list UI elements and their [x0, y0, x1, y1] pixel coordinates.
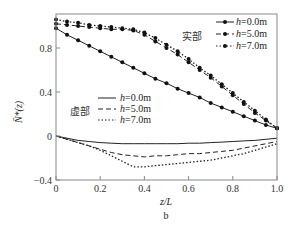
data-point: [231, 91, 235, 95]
legend-marker: [223, 44, 227, 48]
legend-imag: 虚部h=0.0mh=5.0mh=7.0m: [70, 92, 151, 125]
series-line: [56, 136, 277, 144]
legend-group-label-real: 实部: [182, 30, 202, 42]
data-point: [198, 66, 202, 70]
data-point: [253, 109, 257, 113]
data-point: [120, 26, 124, 30]
legend-entry: h=7.0m: [236, 40, 267, 51]
x-tick-label: 1.0: [271, 183, 284, 194]
data-point: [98, 49, 102, 53]
legend-entry: h=0.0m: [236, 16, 267, 27]
panel-label: b: [164, 210, 169, 221]
legend-marker: [223, 20, 227, 24]
x-tick-label: 0.2: [94, 183, 107, 194]
y-axis-label: N̄*(z): [13, 100, 25, 124]
y-tick-label: 0.8: [40, 43, 53, 54]
data-point: [165, 81, 169, 85]
data-point: [220, 105, 224, 109]
x-tick-label: 0.6: [182, 183, 195, 194]
data-point: [209, 74, 213, 78]
legend-marker: [223, 32, 227, 36]
x-tick-label: 0: [54, 183, 59, 194]
data-point: [98, 24, 102, 28]
legend-real: 实部h=0.0mh=5.0mh=7.0m: [182, 16, 267, 51]
data-point: [187, 91, 191, 95]
data-point: [109, 25, 113, 29]
data-point: [65, 33, 69, 37]
data-point: [120, 60, 124, 64]
data-point: [253, 119, 257, 123]
data-point: [176, 87, 180, 91]
data-point: [231, 110, 235, 114]
data-point: [87, 23, 91, 27]
series-line: [56, 136, 277, 157]
legend-entry: h=0.0m: [120, 92, 151, 103]
data-point: [65, 20, 69, 24]
legend-entry: h=5.0m: [120, 103, 151, 114]
data-point: [131, 66, 135, 70]
data-point: [209, 101, 213, 105]
y-tick-label: 0: [47, 131, 52, 142]
data-point: [76, 38, 80, 42]
legend-entry: h=7.0m: [120, 114, 151, 125]
data-point: [153, 77, 157, 81]
data-point: [142, 31, 146, 35]
data-point: [87, 44, 91, 48]
data-point: [198, 96, 202, 100]
data-point: [264, 123, 268, 127]
data-point: [165, 43, 169, 47]
x-tick-label: 0.4: [138, 183, 151, 194]
legend-group-label-imag: 虚部: [70, 105, 90, 117]
data-point: [76, 21, 80, 25]
x-axis-label: z/L: [159, 196, 173, 207]
chart: 00.20.40.60.81.0−0.400.40.8 实部h=0.0mh=5.…: [0, 0, 295, 225]
data-point: [176, 49, 180, 53]
legend-entry: h=5.0m: [236, 28, 267, 39]
data-point: [242, 114, 246, 118]
data-point: [131, 27, 135, 31]
data-point: [220, 82, 224, 86]
data-point: [242, 100, 246, 104]
y-tick-label: −0.4: [34, 175, 52, 186]
data-point: [109, 55, 113, 59]
data-point: [153, 36, 157, 40]
y-tick-label: 0.4: [40, 87, 53, 98]
data-point: [187, 57, 191, 61]
data-point: [142, 71, 146, 75]
x-tick-label: 0.8: [227, 183, 240, 194]
data-point: [264, 118, 268, 122]
